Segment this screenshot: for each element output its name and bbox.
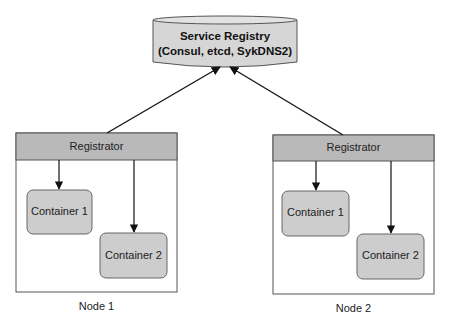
- node-2-container-1-label: Container 1: [282, 206, 349, 218]
- node-2-container-2-label: Container 2: [357, 249, 424, 261]
- node-2-to-registry-arrow: [230, 67, 343, 135]
- node-1-container-2-label: Container 2: [100, 249, 167, 261]
- service-registry-title: Service Registry: [153, 29, 297, 44]
- node-2-registrator-label: Registrator: [273, 141, 434, 153]
- node-1-registrator-label: Registrator: [16, 140, 177, 152]
- node-2-label: Node 2: [273, 302, 434, 314]
- node-1-container-1-label: Container 1: [27, 205, 92, 217]
- node-1-to-registry-arrow: [107, 67, 220, 133]
- node-1-label: Node 1: [16, 300, 177, 312]
- service-registry-label: Service Registry (Consul, etcd, SykDNS2): [153, 29, 297, 59]
- service-registry-subtitle: (Consul, etcd, SykDNS2): [153, 44, 297, 59]
